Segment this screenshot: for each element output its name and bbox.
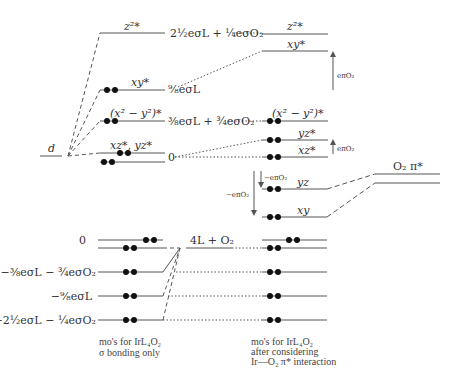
xzyz-label-left: xz*, yz* xyxy=(110,139,153,152)
xy-label-left: xy* xyxy=(131,76,149,89)
lower-4-to-ligand xyxy=(163,248,180,320)
yz-down-label: −eπO₂ xyxy=(264,174,287,182)
mo-diagram: d z²* xy* (x² − y²)* xz*, yz* 2½eσL + ¼e… xyxy=(0,0,460,385)
xy-energy: ⁹⁄₈eσL xyxy=(168,83,201,96)
xy-connector xyxy=(178,51,262,87)
xzyz-energy: 0 xyxy=(168,151,175,164)
lower-2-to-ligand xyxy=(163,248,180,272)
x2y2-label-left: (x² − y²)* xyxy=(110,107,162,120)
d-label: d xyxy=(48,142,55,155)
xz-star-label: xz* xyxy=(298,144,316,157)
arrowhead-up xyxy=(330,139,336,145)
x2y2-label-right: (x² − y²)* xyxy=(272,107,324,120)
xy-label-right: xy* xyxy=(287,38,305,51)
xy-shift-label: eπO₂ xyxy=(337,72,354,80)
lower-energy-3: −2½eσL − ¼eσO₂ xyxy=(0,314,96,327)
d-to-xz-line xyxy=(68,153,100,156)
caption-right-3: Ir—O₂ π* interaction xyxy=(251,356,336,367)
lower-energy-1: −⅜eσL − ¾eσO₂ xyxy=(0,266,96,279)
lower-energy-2: −⁹⁄₈eσL xyxy=(51,290,93,303)
z2-label-right: z²* xyxy=(286,20,303,33)
xy-label: xy xyxy=(297,204,310,217)
caption-left-2: σ bonding only xyxy=(99,347,160,358)
d-to-xy-line xyxy=(68,90,100,156)
z2-label-left: z²* xyxy=(123,20,140,33)
arrowhead-down xyxy=(258,182,264,188)
xy-to-o2-line xyxy=(327,183,375,217)
d-to-z2-line xyxy=(68,33,100,156)
d-to-x2y2-line xyxy=(68,121,100,156)
yz-label: yz xyxy=(296,176,309,189)
mo-diagram-svg: d z²* xy* (x² − y²)* xz*, yz* 2½eσL + ¼e… xyxy=(0,0,460,385)
o2-pi-label: O₂ π* xyxy=(393,160,423,173)
yz-shift-label: eπO₂ xyxy=(337,145,354,153)
z2-energy: 2½eσL + ¼eσO₂ xyxy=(170,27,263,40)
lower-energy-0: 0 xyxy=(79,234,86,247)
caption-left-1: mo's for IrL₄O₂ xyxy=(99,336,161,347)
yz-to-o2-line xyxy=(327,174,375,189)
yz-connector xyxy=(175,140,262,157)
x2y2-energy: ⅜eσL + ¾eσO₂ xyxy=(168,115,254,128)
arrowhead-down xyxy=(251,210,257,216)
arrowhead-up xyxy=(330,51,336,57)
ligand-label: 4L + O₂ xyxy=(190,234,234,247)
xy-down-label: −eπO₂ xyxy=(226,191,249,199)
yz-star-label: yz* xyxy=(297,127,316,140)
